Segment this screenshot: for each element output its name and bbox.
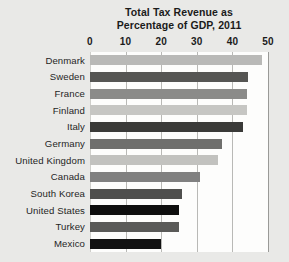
category-label-south-korea: South Korea <box>31 185 85 202</box>
bar-row <box>90 119 268 136</box>
category-label-denmark: Denmark <box>45 52 85 69</box>
x-tick-label-40: 40 <box>227 36 239 47</box>
bar-row <box>90 69 268 86</box>
category-label-italy: Italy <box>67 119 85 136</box>
bar-row <box>90 185 268 202</box>
bar-germany <box>90 139 222 149</box>
bar-canada <box>90 172 200 182</box>
category-label-turkey: Turkey <box>55 219 85 236</box>
category-label-germany: Germany <box>45 135 85 152</box>
category-label-france: France <box>55 85 85 102</box>
y-axis-category-labels: DenmarkSwedenFranceFinlandItalyGermanyUn… <box>0 52 88 252</box>
category-label-sweden: Sweden <box>50 69 85 86</box>
bar-finland <box>90 105 247 115</box>
bar-row <box>90 85 268 102</box>
x-tick-label-30: 30 <box>191 36 203 47</box>
x-tick-label-10: 10 <box>120 36 132 47</box>
bar-italy <box>90 122 243 132</box>
bar-france <box>90 89 247 99</box>
bar-row <box>90 169 268 186</box>
chart-title: Total Tax Revenue as Percentage of GDP, … <box>84 6 274 32</box>
bar-row <box>90 202 268 219</box>
x-axis-tick-labels: 01020304050 <box>0 36 289 50</box>
category-label-mexico: Mexico <box>54 235 85 252</box>
gridline-50 <box>268 52 269 252</box>
bar-denmark <box>90 55 262 65</box>
x-tick-label-20: 20 <box>155 36 167 47</box>
bar-row <box>90 102 268 119</box>
bar-south-korea <box>90 189 182 199</box>
chart-title-line-1: Total Tax Revenue as <box>84 6 274 19</box>
bar-mexico <box>90 239 161 249</box>
bar-united-states <box>90 205 179 215</box>
chart-title-line-2: Percentage of GDP, 2011 <box>84 19 274 32</box>
bar-row <box>90 152 268 169</box>
plot-area <box>90 52 268 252</box>
category-label-finland: Finland <box>53 102 85 119</box>
category-label-united-kingdom: United Kingdom <box>15 152 85 169</box>
bar-row <box>90 135 268 152</box>
category-label-united-states: United States <box>26 202 85 219</box>
bar-row <box>90 235 268 252</box>
bar-chart-figure: Total Tax Revenue as Percentage of GDP, … <box>0 0 289 262</box>
x-tick-label-50: 50 <box>262 36 274 47</box>
bar-row <box>90 52 268 69</box>
category-label-canada: Canada <box>51 169 85 186</box>
x-tick-label-0: 0 <box>87 36 93 47</box>
bar-row <box>90 219 268 236</box>
bar-united-kingdom <box>90 155 218 165</box>
bar-turkey <box>90 222 179 232</box>
bars-layer <box>90 52 268 252</box>
bar-sweden <box>90 72 248 82</box>
